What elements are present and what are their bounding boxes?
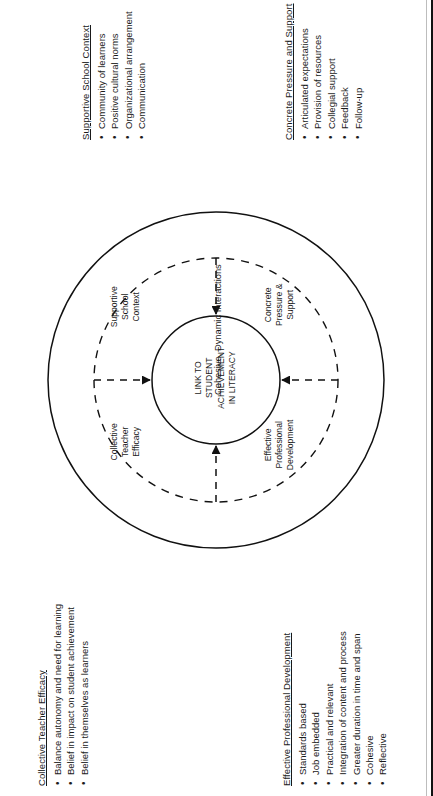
list-item: Practical and relevant <box>323 456 336 786</box>
list-item: Integration of content and process <box>336 456 349 786</box>
list-effective-professional-development: Effective Professional Development Stand… <box>281 456 390 786</box>
list-title: Supportive School Context <box>80 0 91 140</box>
list-item: Positive cultural norms <box>108 0 121 140</box>
list-items: Articulated expectations Provision of re… <box>298 0 365 140</box>
list-item: Standards based <box>296 456 309 786</box>
list-item: Organizational arrangement <box>122 0 135 140</box>
list-item: Job embedded <box>309 456 322 786</box>
list-items: Balance autonomy and need for learning B… <box>51 456 91 786</box>
list-item: Greater duration in time and span <box>350 456 363 786</box>
list-item: Provision of resources <box>311 0 324 140</box>
outer-ring-label: Cohesive, Dynamic Interactions <box>213 264 223 395</box>
list-title: Collective Teacher Efficacy <box>36 456 47 786</box>
list-collective-teacher-efficacy: Collective Teacher Efficacy Balance auto… <box>36 456 91 786</box>
list-concrete-pressure-and-support: Concrete Pressure and Support Articulate… <box>283 0 365 140</box>
list-item: Communication <box>135 0 148 140</box>
list-item: Balance autonomy and need for learning <box>51 456 64 786</box>
list-item: Belief in themselves as learners <box>78 456 91 786</box>
list-item: Community of learners <box>95 0 108 140</box>
list-item: Articulated expectations <box>298 0 311 140</box>
quadrant-label-collective-teacher-efficacy: Collective Teacher Efficacy <box>109 402 143 482</box>
quadrant-label-concrete-pressure-support: Concrete Pressure & Support <box>263 265 297 345</box>
list-title: Concrete Pressure and Support <box>283 0 294 140</box>
quadrant-label-supportive-school-context: Supportive School Context <box>109 267 143 347</box>
list-item: Belief in impact on student achievement <box>64 456 77 786</box>
list-supportive-school-context: Supportive School Context Community of l… <box>80 0 149 140</box>
list-items: Community of learners Positive cultural … <box>95 0 149 140</box>
list-title: Effective Professional Development <box>281 456 292 786</box>
list-item: Collegial support <box>325 0 338 140</box>
list-item: Feedback <box>338 0 351 140</box>
list-item: Cohesive <box>363 456 376 786</box>
list-item: Follow-up <box>352 0 365 140</box>
list-item: Reflective <box>376 456 389 786</box>
list-items: Standards based Job embedded Practical a… <box>296 456 390 786</box>
